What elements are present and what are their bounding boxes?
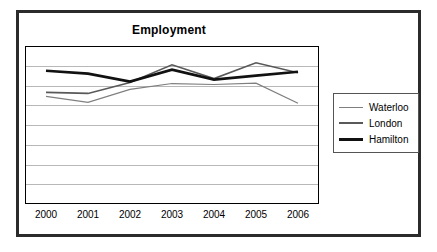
x-axis-label: 2001 <box>68 209 108 220</box>
legend: Waterloo London Hamilton <box>333 93 419 153</box>
chart-title: Employment <box>19 23 319 37</box>
x-axis-label: 2003 <box>152 209 192 220</box>
legend-item: London <box>338 115 414 131</box>
chart-frame: Employment 2000200120022003200420052006 … <box>16 10 421 237</box>
x-axis-label: 2006 <box>278 209 318 220</box>
legend-line-icon-hamilton <box>338 134 364 144</box>
line-chart-svg <box>25 46 319 204</box>
legend-line-icon-waterloo <box>338 102 364 112</box>
x-axis-label: 2002 <box>110 209 150 220</box>
legend-item: Hamilton <box>338 131 414 147</box>
legend-label-hamilton: Hamilton <box>369 134 408 145</box>
legend-label-london: London <box>369 118 402 129</box>
data-series-group <box>46 63 298 103</box>
legend-line-icon-london <box>338 118 364 128</box>
x-axis-label: 2004 <box>194 209 234 220</box>
plot-area <box>25 46 319 204</box>
x-axis-label-row: 2000200120022003200420052006 <box>25 209 319 225</box>
legend-item: Waterloo <box>338 99 414 115</box>
series-line-london <box>46 63 298 94</box>
x-axis-label: 2000 <box>26 209 66 220</box>
series-line-hamilton <box>46 70 298 82</box>
x-axis-label: 2005 <box>236 209 276 220</box>
gridlines <box>26 67 318 185</box>
legend-label-waterloo: Waterloo <box>369 102 409 113</box>
